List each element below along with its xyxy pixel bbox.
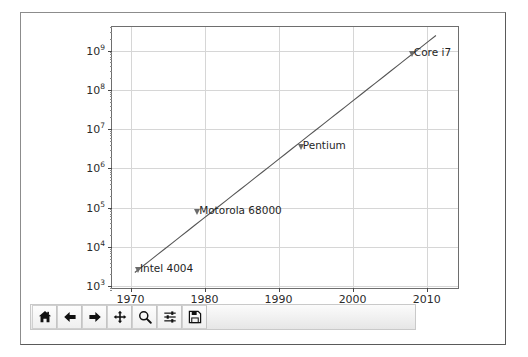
annotation-label: Core i7: [414, 47, 451, 58]
move-icon: [113, 310, 127, 324]
plot-axes[interactable]: 103104105106107108109 197019801990200020…: [111, 26, 459, 289]
annotation-label: Pentium: [303, 140, 346, 151]
pan-button[interactable]: [107, 305, 132, 329]
data-line: [112, 27, 458, 288]
y-tick-minor: [110, 288, 112, 289]
moores-law-line: [135, 35, 436, 272]
annotation-label: Intel 4004: [140, 263, 193, 274]
y-tick-label: 109: [86, 45, 105, 56]
y-tick-label: 106: [86, 163, 105, 174]
x-tick-major: [353, 288, 354, 292]
home-button[interactable]: [32, 305, 57, 329]
y-tick-label: 103: [86, 281, 105, 292]
magnifier-icon: [138, 310, 152, 324]
x-tick-major: [131, 288, 132, 292]
y-tick-minor: [110, 290, 112, 291]
back-button[interactable]: [57, 305, 82, 329]
y-tick-label: 107: [86, 124, 105, 135]
y-tick-label: 105: [86, 202, 105, 213]
figure-window: 103104105106107108109 197019801990200020…: [20, 12, 506, 345]
zoom-button[interactable]: [132, 305, 157, 329]
configure-subplots-button[interactable]: [157, 305, 182, 329]
arrow-left-icon: [63, 310, 77, 324]
y-tick-label: 108: [86, 84, 105, 95]
y-tick-label: 104: [86, 241, 105, 252]
x-tick-major: [427, 288, 428, 292]
x-tick-label: 2010: [413, 294, 441, 305]
x-tick-major: [279, 288, 280, 292]
save-button[interactable]: [182, 305, 207, 329]
forward-button[interactable]: [82, 305, 107, 329]
save-icon: [188, 310, 202, 324]
navigation-toolbar[interactable]: [30, 304, 416, 330]
annotation-label: Motorola 68000: [199, 205, 282, 216]
x-tick-major: [205, 288, 206, 292]
home-icon: [38, 310, 52, 324]
arrow-right-icon: [88, 310, 102, 324]
sliders-icon: [163, 310, 177, 324]
